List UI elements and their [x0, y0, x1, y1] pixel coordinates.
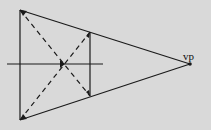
arrow-tip-top-left [20, 10, 27, 16]
top-convergence-line [20, 10, 190, 64]
arrow-tip-center [60, 60, 65, 68]
vanishing-point-dot [188, 62, 192, 66]
perspective-diagram: vp [0, 0, 211, 130]
bottom-convergence-line [20, 64, 190, 120]
diagonal-dashed-1 [20, 10, 90, 96]
arrow-tip-bottom-left [20, 114, 27, 120]
vanishing-point-label: vp [183, 50, 195, 62]
diagonal-dashed-2 [20, 32, 90, 120]
